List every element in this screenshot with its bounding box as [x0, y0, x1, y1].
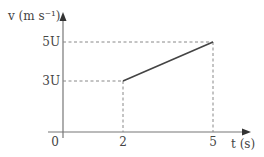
origin-label: 0 [51, 135, 59, 149]
velocity-time-graph: v (m s⁻¹) 5U 3U 0 2 5 t (s) [0, 0, 264, 157]
tick-3U: 3U [42, 74, 60, 88]
tick-5: 5 [209, 135, 217, 149]
y-axis-label: v (m s⁻¹) [7, 9, 60, 23]
velocity-line [123, 42, 213, 81]
x-axis-label: t (s) [231, 137, 255, 151]
tick-5U: 5U [42, 35, 60, 49]
x-axis-arrow-icon [242, 129, 251, 136]
y-axis-arrow-icon [60, 12, 67, 21]
tick-2: 2 [119, 135, 127, 149]
